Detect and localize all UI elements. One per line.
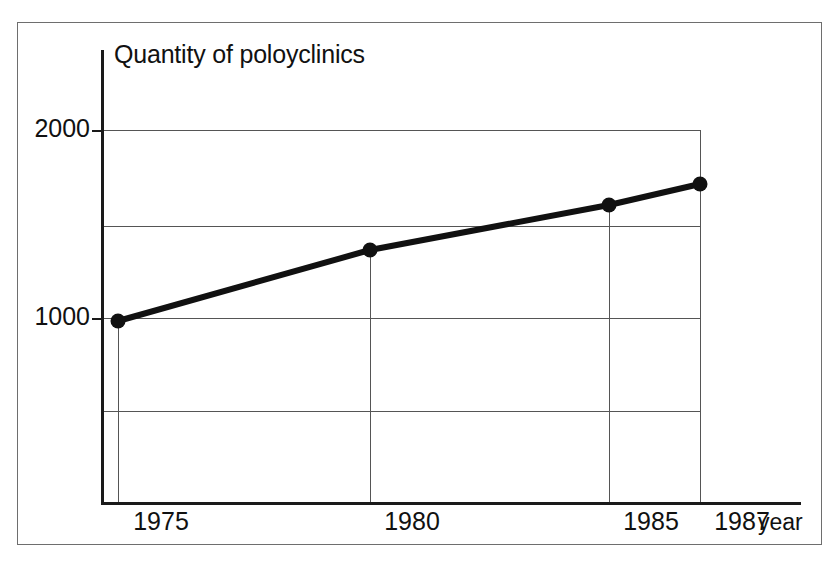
y-axis-label-1000: 1000 xyxy=(34,302,90,331)
chart-title: Quantity of poloyclinics xyxy=(114,40,365,69)
x-axis-label-1975: 1975 xyxy=(133,507,189,536)
figure-frame xyxy=(17,22,822,545)
x-axis-label-1985: 1985 xyxy=(623,507,679,536)
x-axis-label-1980: 1980 xyxy=(384,507,440,536)
y-axis-label-2000: 2000 xyxy=(34,114,90,143)
x-axis-title: year xyxy=(758,509,803,536)
